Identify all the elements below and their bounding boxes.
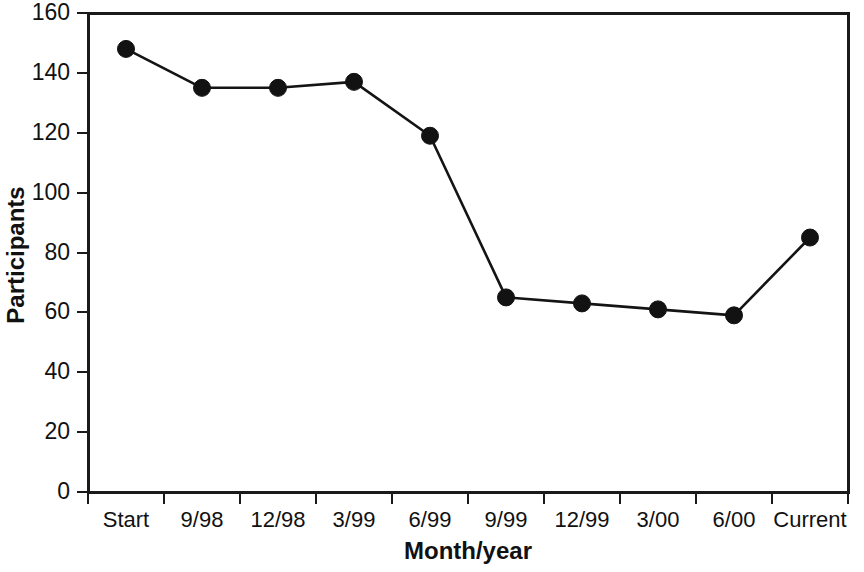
data-point-marker (118, 40, 135, 57)
data-point-marker (270, 79, 287, 96)
y-tick-label: 80 (44, 239, 70, 265)
y-tick-label: 120 (32, 119, 70, 145)
line-chart: 020406080100120140160 Start9/9812/983/99… (0, 0, 864, 572)
data-point-marker (802, 229, 819, 246)
series-markers (118, 40, 819, 323)
chart-figure: 020406080100120140160 Start9/9812/983/99… (0, 0, 864, 572)
y-tick-label: 100 (32, 179, 70, 205)
x-tick-label: Current (773, 507, 846, 532)
x-tick-label: 3/99 (333, 507, 376, 532)
data-point-marker (574, 295, 591, 312)
x-tick-label: 12/99 (554, 507, 609, 532)
x-tick-label: 9/98 (181, 507, 224, 532)
x-tick-label: 12/98 (250, 507, 305, 532)
x-tick-label: 6/00 (713, 507, 756, 532)
y-tick-label: 160 (32, 0, 70, 25)
data-point-marker (194, 79, 211, 96)
data-series (118, 40, 819, 323)
y-tick-label: 0 (57, 478, 70, 504)
data-point-marker (726, 307, 743, 324)
y-axis-tick-labels: 020406080100120140160 (32, 0, 70, 504)
y-tick-label: 40 (44, 358, 70, 384)
data-point-marker (422, 127, 439, 144)
y-tick-label: 140 (32, 59, 70, 85)
data-point-marker (498, 289, 515, 306)
x-tick-label: 6/99 (409, 507, 452, 532)
y-axis-ticks (77, 13, 88, 492)
data-point-marker (650, 301, 667, 318)
x-tick-label: 9/99 (485, 507, 528, 532)
x-axis-title: Month/year (404, 537, 532, 564)
y-tick-label: 60 (44, 298, 70, 324)
x-tick-label: 3/00 (637, 507, 680, 532)
x-axis-tick-labels: Start9/9812/983/996/999/9912/993/006/00C… (103, 507, 847, 532)
data-point-marker (346, 73, 363, 90)
x-axis-ticks (88, 492, 848, 504)
x-tick-label: Start (103, 507, 149, 532)
y-tick-label: 20 (44, 418, 70, 444)
y-axis-title: Participants (2, 186, 29, 323)
series-line-participants (126, 49, 810, 316)
